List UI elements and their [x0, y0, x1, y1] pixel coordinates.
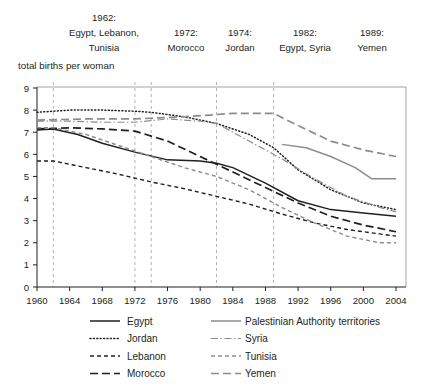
legend-label-tunisia: Tunisia	[245, 351, 277, 362]
legend-label-morocco: Morocco	[127, 368, 166, 379]
chart-figure: 1962: Egypt, Lebanon, Tunisia 1972: Moro…	[0, 0, 421, 389]
y-tick-label-8: 8	[24, 105, 29, 116]
y-tick-label-6: 6	[24, 149, 29, 160]
x-tick-label-1988: 1988	[255, 295, 276, 306]
annotation-year-1962: 1962:	[92, 12, 116, 23]
annotation-countries-1962-line1: Egypt, Lebanon,	[69, 27, 139, 38]
x-tick-label-1972: 1972	[124, 295, 145, 306]
annotation-year-1989: 1989:	[360, 27, 384, 38]
annotation-year-1974: 1974:	[228, 27, 252, 38]
x-tick-label-1996: 1996	[320, 295, 341, 306]
y-tick-label-1: 1	[24, 259, 29, 270]
legend-label-yemen: Yemen	[245, 368, 276, 379]
legend-label-jordan: Jordan	[127, 333, 158, 344]
y-tick-label-7: 7	[24, 127, 29, 138]
legend-label-syria: Syria	[245, 333, 268, 344]
annotation-countries-1974: Jordan	[225, 42, 254, 53]
x-tick-label-1980: 1980	[190, 295, 211, 306]
annotation-countries-1972: Morocco	[168, 42, 205, 53]
x-tick-label-1976: 1976	[157, 295, 178, 306]
annotation-countries-1989: Yemen	[357, 42, 387, 53]
legend-label-lebanon: Lebanon	[127, 351, 166, 362]
y-tick-label-2: 2	[24, 237, 29, 248]
x-tick-label-1992: 1992	[287, 295, 308, 306]
y-tick-label-0: 0	[24, 282, 29, 293]
legend-label-palestinian-authority-territories: Palestinian Authority territories	[245, 316, 380, 327]
annotation-year-1982: 1982:	[293, 27, 317, 38]
y-tick-label-9: 9	[24, 83, 29, 94]
x-tick-label-1968: 1968	[92, 295, 113, 306]
y-tick-label-5: 5	[24, 171, 29, 182]
x-tick-label-2004: 2004	[385, 295, 407, 306]
y-axis-title: total births per woman	[18, 60, 114, 71]
y-tick-label-4: 4	[24, 193, 30, 204]
x-tick-label-1984: 1984	[222, 295, 244, 306]
x-tick-label-1964: 1964	[59, 295, 81, 306]
annotation-countries-1982: Egypt, Syria	[279, 42, 331, 53]
y-tick-label-3: 3	[24, 215, 29, 226]
annotation-countries-1962-line2: Tunisia	[89, 42, 120, 53]
legend-label-egypt: Egypt	[127, 316, 153, 327]
x-tick-label-2000: 2000	[353, 295, 374, 306]
x-tick-label-1960: 1960	[26, 295, 47, 306]
annotation-year-1972: 1972:	[174, 27, 198, 38]
